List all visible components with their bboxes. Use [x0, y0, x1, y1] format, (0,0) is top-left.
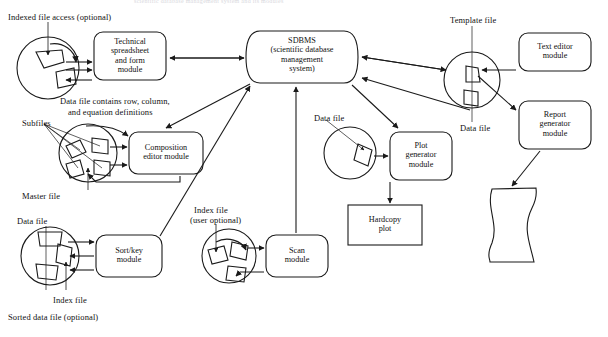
disk6-seg-top	[466, 66, 480, 82]
annotation-template-file: Template file	[450, 16, 496, 26]
module-label-sdbms[interactable]: SDBMS (scientific database management sy…	[246, 36, 358, 74]
module-label-text-editor[interactable]: Text editor module	[519, 42, 591, 61]
arrow-sdbms-to-disk6	[362, 57, 446, 70]
annotation-index-file-sortkey: Index file	[53, 296, 87, 306]
disk3-seg-mid	[56, 244, 72, 266]
module-label-technical-spreadsheet[interactable]: Technical spreadsheet and form module	[94, 37, 166, 75]
module-hardcopy-output	[489, 188, 537, 262]
annotation-data-file-contains: Data file contains row, column,	[60, 97, 170, 107]
disk5-seg	[354, 144, 372, 166]
annotation-data-file-template: Data file	[460, 124, 490, 134]
annotation-sorted-data-file: Sorted data file (optional)	[8, 313, 98, 323]
disk1-segment-mid	[56, 68, 76, 88]
module-label-scan[interactable]: Scan module	[266, 246, 328, 265]
disk3-seg-bot	[36, 264, 58, 280]
annotation-subfiles: Subfiles	[22, 119, 51, 129]
annotation-master-file: Master file	[22, 192, 60, 202]
module-label-composition-editor[interactable]: Composition editor module	[129, 143, 203, 162]
module-label-sort-key[interactable]: Sort/key module	[96, 246, 162, 265]
arrow-disk6-lower-to-sdbms	[362, 78, 470, 110]
disk4-seg-b	[230, 242, 248, 260]
disk6-seg-bot	[464, 90, 478, 106]
disk1-segment-top	[36, 50, 64, 68]
annotation-data-file-plot: Data file	[314, 114, 344, 124]
module-label-plot-generator[interactable]: Plot generator module	[390, 141, 452, 169]
annotation-indexed-file-access: Indexed file access (optional)	[8, 13, 111, 23]
disk-plot-data	[324, 127, 376, 179]
annotation-index-file-user-optional-2: (user optional)	[190, 216, 241, 226]
module-label-hardcopy-plot[interactable]: Hardcopy plot	[348, 215, 422, 234]
arrow-sdbms-to-plot	[352, 85, 398, 128]
module-label-report-generator[interactable]: Report generator module	[519, 110, 591, 138]
disk4-seg-a	[208, 246, 228, 264]
annotation-and-equation-definitions: and equation definitions	[68, 108, 153, 118]
arrow-report-to-hardcopy-output	[512, 151, 540, 186]
annotation-data-file-sortkey: Data file	[17, 217, 47, 227]
diagram-canvas: scientific database management system an…	[0, 0, 608, 337]
disk2-seg-c	[66, 160, 84, 178]
